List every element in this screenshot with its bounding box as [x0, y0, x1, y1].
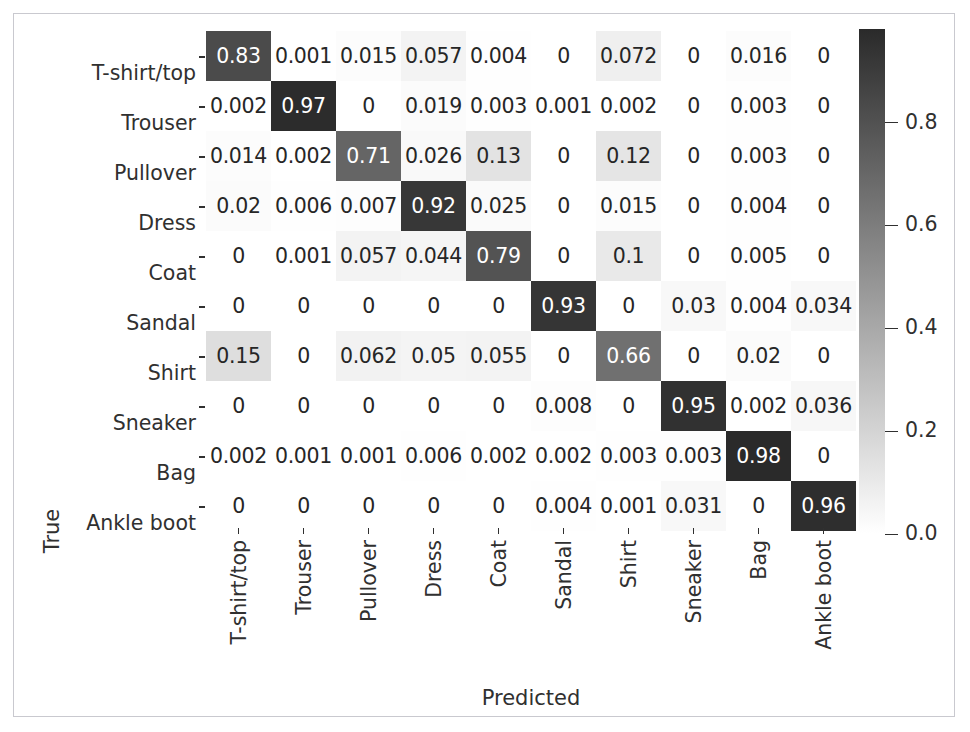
heatmap-cell-value: 0 [661, 181, 726, 231]
heatmap-cell-value: 0.002 [726, 381, 791, 431]
heatmap-cell-value: 0.002 [206, 431, 271, 481]
x-tick-mark [498, 528, 500, 534]
x-tick: Coat [466, 534, 531, 684]
heatmap-cell-value: 0 [661, 231, 726, 281]
heatmap-cell-value: 0.002 [596, 81, 661, 131]
x-tick-mark [628, 528, 630, 534]
heatmap-cell-value: 0.072 [596, 31, 661, 81]
heatmap-cell-value: 0.025 [466, 181, 531, 231]
x-tick: Ankle boot [791, 534, 856, 684]
heatmap-cell-value: 0 [531, 131, 596, 181]
y-tick-mark [199, 506, 205, 508]
colorbar-tick: 0.4 [885, 317, 938, 337]
heatmap-cell-value: 0.92 [401, 181, 466, 231]
heatmap-cell-value: 0 [531, 181, 596, 231]
colorbar-tick-mark [885, 431, 898, 432]
heatmap-cell-value: 0.002 [206, 81, 271, 131]
heatmap-cell-value: 0.008 [531, 381, 596, 431]
heatmap-cell-value: 0.002 [271, 131, 336, 181]
heatmap-cell-value: 0.001 [336, 431, 401, 481]
heatmap-cell-value: 0.031 [661, 481, 726, 531]
y-tick-mark [199, 106, 205, 108]
x-tick-label: Bag [748, 540, 769, 580]
heatmap-cell-value: 0.003 [661, 431, 726, 481]
heatmap-cell-value: 0.002 [531, 431, 596, 481]
heatmap-cell-value: 0 [531, 231, 596, 281]
heatmap-cell-value: 0.003 [726, 131, 791, 181]
heatmap-cell-value: 0 [791, 231, 856, 281]
heatmap-cell-value: 0.001 [596, 481, 661, 531]
heatmap-cell-value: 0.79 [466, 231, 531, 281]
heatmap-cell-value: 0 [401, 481, 466, 531]
colorbar-tick: 0.0 [885, 523, 938, 543]
colorbar-tick-mark [885, 534, 898, 535]
x-tick: Sneaker [661, 534, 726, 684]
x-tick-label: Trouser [293, 540, 314, 615]
heatmap-cell-value: 0 [531, 31, 596, 81]
heatmap-cell-value: 0 [271, 281, 336, 331]
heatmap-cell-value: 0.004 [726, 181, 791, 231]
heatmap-cell-value: 0.001 [271, 31, 336, 81]
heatmap-cell-value: 0.014 [206, 131, 271, 181]
heatmap-cell-value: 0.02 [726, 331, 791, 381]
heatmap-cell-value: 0 [531, 331, 596, 381]
heatmap-cell-value: 0 [336, 281, 401, 331]
colorbar-tick-label: 0.6 [905, 212, 938, 236]
confusion-matrix-axes: 0.830.0010.0150.0570.00400.07200.01600.0… [206, 31, 856, 531]
y-tick-mark [199, 306, 205, 308]
heatmap-cell-value: 0 [596, 281, 661, 331]
heatmap-cell-value: 0 [661, 131, 726, 181]
heatmap-cell-value: 0.13 [466, 131, 531, 181]
heatmap-cell-value: 0.015 [596, 181, 661, 231]
colorbar-tick: 0.8 [885, 112, 938, 132]
x-tick: Shirt [596, 534, 661, 684]
heatmap-cell-value: 0.93 [531, 281, 596, 331]
x-tick-mark [758, 528, 760, 534]
heatmap-cell-value: 0.006 [401, 431, 466, 481]
heatmap-cell-value: 0.015 [336, 31, 401, 81]
heatmap-cell-value: 0 [336, 81, 401, 131]
colorbar-tick-label: 0.0 [905, 521, 938, 545]
x-tick-label: Coat [488, 540, 509, 587]
heatmap-cell-value: 0.001 [271, 431, 336, 481]
colorbar-tick-label: 0.4 [905, 315, 938, 339]
heatmap-cell-value: 0.044 [401, 231, 466, 281]
heatmap-cell-value: 0 [791, 31, 856, 81]
heatmap-cell-value: 0.05 [401, 331, 466, 381]
x-tick: Dress [401, 534, 466, 684]
colorbar-gradient [859, 29, 885, 533]
x-tick: Bag [726, 534, 791, 684]
x-tick: Pullover [336, 534, 401, 684]
x-tick-label: Dress [423, 540, 444, 598]
heatmap-cell-value: 0 [791, 431, 856, 481]
heatmap-cell-value: 0.062 [336, 331, 401, 381]
heatmap-cell-value: 0.007 [336, 181, 401, 231]
y-tick-label: Dress [16, 198, 196, 248]
colorbar-tick-mark [885, 225, 898, 226]
heatmap-cell-value: 0 [271, 331, 336, 381]
figure-frame: 0.830.0010.0150.0570.00400.07200.01600.0… [13, 13, 955, 717]
y-tick-mark [199, 406, 205, 408]
y-tick-mark [199, 156, 205, 158]
heatmap-cell-value: 0.95 [661, 381, 726, 431]
heatmap-cell-value: 0.001 [271, 231, 336, 281]
heatmap-cell-value: 0.003 [596, 431, 661, 481]
heatmap-cell-value: 0 [206, 231, 271, 281]
x-tick-mark [368, 528, 370, 534]
x-tick-mark [563, 528, 565, 534]
x-tick: T-shirt/top [206, 534, 271, 684]
x-tick-label: Pullover [358, 540, 379, 622]
heatmap-cell-value: 0.003 [726, 81, 791, 131]
heatmap-cell-value: 0.004 [726, 281, 791, 331]
colorbar-tick-label: 0.8 [905, 110, 938, 134]
x-tick-labels: T-shirt/topTrouserPulloverDressCoatSanda… [206, 534, 856, 684]
x-tick-label: Shirt [618, 540, 639, 588]
heatmap-cell-value: 0 [206, 281, 271, 331]
heatmap-cell-value: 0 [271, 381, 336, 431]
heatmap-cell-value: 0 [791, 81, 856, 131]
heatmap-cell-value: 0 [401, 281, 466, 331]
x-axis-title: Predicted [206, 686, 856, 710]
heatmap-cell-value: 0.057 [336, 231, 401, 281]
x-tick-label: Sneaker [683, 540, 704, 623]
heatmap-cell-value: 0.026 [401, 131, 466, 181]
